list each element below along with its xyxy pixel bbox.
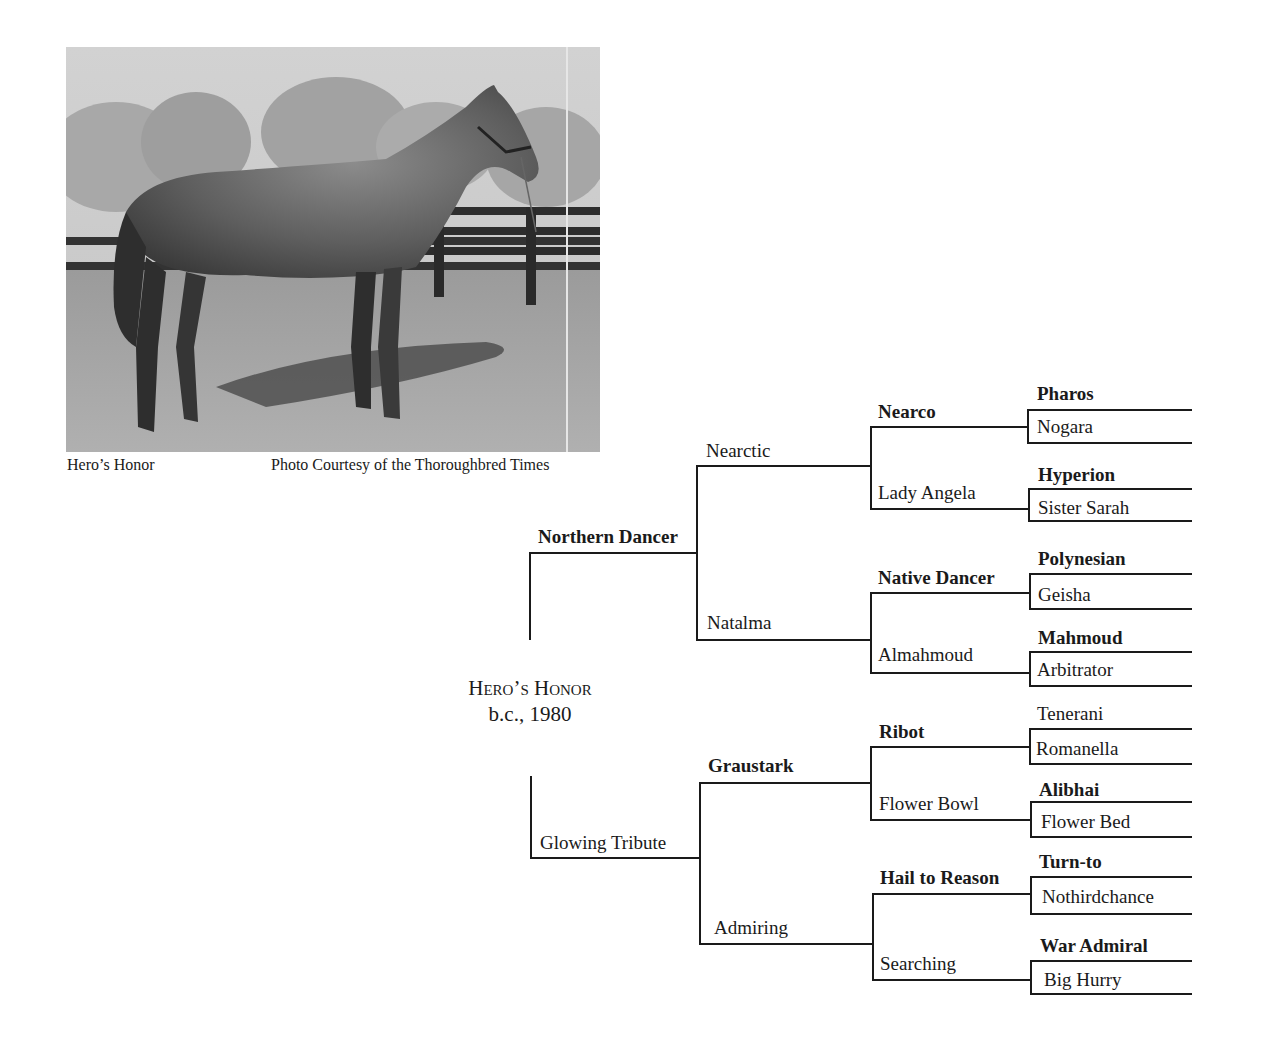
gen4-item: Romanella <box>1036 739 1118 758</box>
sire-name: Northern Dancer <box>538 527 678 546</box>
gen4-item: Hyperion <box>1038 465 1115 484</box>
gen2-sire-dam: Natalma <box>707 613 771 632</box>
gen4-item: Flower Bed <box>1041 812 1130 831</box>
gen3-item: Nearco <box>878 402 936 421</box>
gen3-item: Lady Angela <box>878 483 976 502</box>
gen4-item: Pharos <box>1037 384 1094 403</box>
gen3-item: Flower Bowl <box>879 794 979 813</box>
gen4-item: Alibhai <box>1039 780 1099 799</box>
gen2-dam-dam: Admiring <box>714 918 788 937</box>
gen4-item: Nothirdchance <box>1042 887 1154 906</box>
gen3-item: Searching <box>880 954 956 973</box>
gen4-item: Arbitrator <box>1037 660 1113 679</box>
gen4-item: Polynesian <box>1038 549 1126 568</box>
gen3-item: Native Dancer <box>878 568 995 587</box>
gen2-sire-sire: Nearctic <box>706 441 770 460</box>
gen4-item: Turn-to <box>1039 852 1102 871</box>
gen4-item: Mahmoud <box>1038 628 1122 647</box>
gen3-item: Almahmoud <box>878 645 973 664</box>
gen4-item: Big Hurry <box>1044 970 1122 989</box>
dam-name: Glowing Tribute <box>540 833 666 852</box>
gen4-item: Nogara <box>1037 417 1093 436</box>
gen4-item: Tenerani <box>1037 704 1103 723</box>
gen3-item: Hail to Reason <box>880 868 999 887</box>
gen4-item: Sister Sarah <box>1038 498 1129 517</box>
gen3-item: Ribot <box>879 722 924 741</box>
gen4-item: Geisha <box>1038 585 1091 604</box>
gen4-item: War Admiral <box>1040 936 1148 955</box>
gen2-dam-sire: Graustark <box>708 756 794 775</box>
